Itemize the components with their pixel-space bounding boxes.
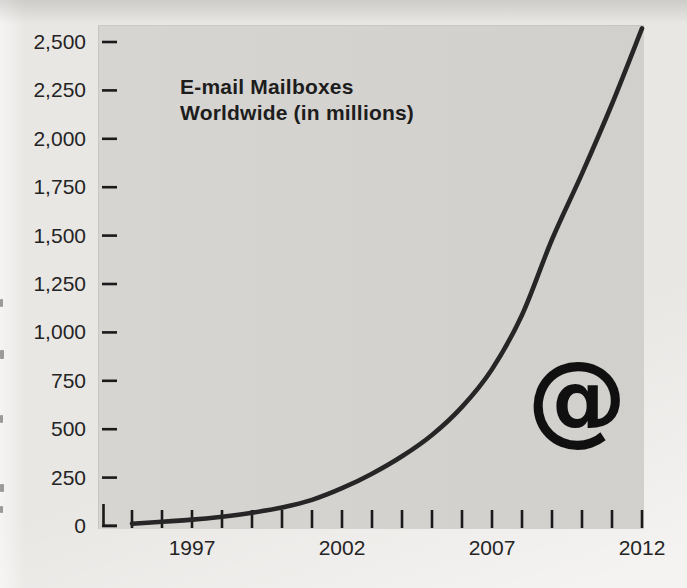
y-axis-label: 1,500 — [4, 224, 86, 248]
page-edge-artifact — [0, 506, 3, 513]
y-axis-label: 1,250 — [4, 272, 86, 296]
page-edge-artifact — [0, 415, 3, 423]
x-axis-label: 2002 — [304, 536, 380, 560]
y-axis-label: 2,250 — [4, 78, 86, 102]
page-edge-artifact — [0, 299, 3, 307]
y-axis-label: 0 — [4, 514, 86, 538]
x-axis-label: 2007 — [454, 536, 530, 560]
y-axis-label: 500 — [4, 417, 86, 441]
axis-origin-corner — [104, 504, 118, 526]
y-axis-label: 1,000 — [4, 320, 86, 344]
page-edge-artifact — [0, 350, 4, 359]
y-axis-label: 2,500 — [4, 30, 86, 54]
x-axis-label: 1997 — [154, 536, 230, 560]
scanned-chart-page: E-mail Mailboxes Worldwide (in millions)… — [0, 0, 687, 588]
y-axis-label: 250 — [4, 466, 86, 490]
growth-curve-svg — [0, 0, 687, 588]
page-edge-artifact — [0, 484, 4, 492]
y-axis-label: 2,000 — [4, 127, 86, 151]
growth-curve — [132, 28, 642, 523]
y-axis-label: 750 — [4, 369, 86, 393]
y-axis-label: 1,750 — [4, 175, 86, 199]
x-axis-label: 2012 — [604, 536, 680, 560]
